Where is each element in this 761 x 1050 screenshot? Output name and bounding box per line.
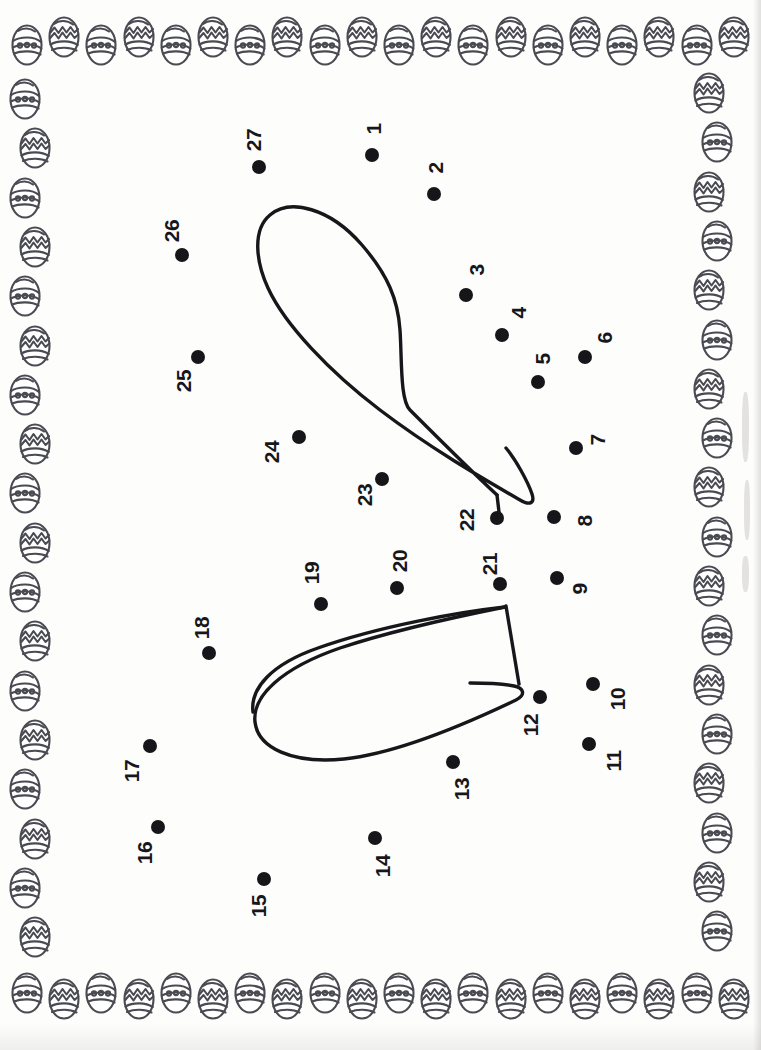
puzzle-dot-27[interactable] xyxy=(252,160,266,174)
border-egg-right-7 xyxy=(692,364,726,410)
puzzle-dot-24[interactable] xyxy=(292,430,306,444)
ear-base-tick xyxy=(497,495,499,512)
border-egg-bottom-16 xyxy=(568,974,602,1020)
scan-artifact xyxy=(742,556,749,592)
puzzle-dot-18[interactable] xyxy=(202,646,216,660)
dot-label-18: 18 xyxy=(190,614,214,642)
puzzle-dot-22[interactable] xyxy=(490,511,504,525)
puzzle-dot-8[interactable] xyxy=(547,510,561,524)
border-egg-left-8 xyxy=(18,419,52,465)
border-egg-left-11 xyxy=(8,567,42,613)
puzzle-dot-16[interactable] xyxy=(151,820,165,834)
dot-label-24: 24 xyxy=(260,438,284,466)
border-egg-left-17 xyxy=(8,863,42,909)
scan-artifact xyxy=(742,392,749,462)
border-egg-top-1 xyxy=(10,20,44,66)
puzzle-dot-13[interactable] xyxy=(446,755,460,769)
lower-ear-cap xyxy=(506,606,519,684)
border-egg-bottom-13 xyxy=(456,968,490,1014)
border-egg-bottom-15 xyxy=(531,968,565,1014)
puzzle-dot-21[interactable] xyxy=(493,577,507,591)
dot-label-19: 19 xyxy=(300,559,324,587)
border-egg-right-15 xyxy=(692,758,726,804)
dot-label-6: 6 xyxy=(593,324,617,352)
puzzle-dot-20[interactable] xyxy=(390,581,404,595)
border-egg-bottom-18 xyxy=(642,974,676,1020)
dot-label-26: 26 xyxy=(160,217,184,245)
border-egg-bottom-14 xyxy=(494,974,528,1020)
lower-ear-top-edge xyxy=(253,607,505,712)
dot-label-16: 16 xyxy=(133,839,157,867)
puzzle-dot-4[interactable] xyxy=(495,328,509,342)
border-egg-top-14 xyxy=(494,12,528,58)
dot-label-22: 22 xyxy=(455,506,479,534)
border-egg-top-10 xyxy=(345,12,379,58)
border-egg-bottom-8 xyxy=(270,974,304,1020)
puzzle-dot-23[interactable] xyxy=(375,472,389,486)
border-egg-bottom-3 xyxy=(84,968,118,1014)
border-egg-right-16 xyxy=(700,808,734,854)
border-egg-bottom-17 xyxy=(605,968,639,1014)
puzzle-dot-14[interactable] xyxy=(368,831,382,845)
border-egg-left-3 xyxy=(8,173,42,219)
border-egg-left-15 xyxy=(8,764,42,810)
dot-label-12: 12 xyxy=(519,711,543,739)
border-egg-top-3 xyxy=(84,20,118,66)
dot-label-4: 4 xyxy=(507,299,531,327)
puzzle-dot-15[interactable] xyxy=(257,872,271,886)
dot-label-15: 15 xyxy=(247,892,271,920)
puzzle-dot-17[interactable] xyxy=(143,739,157,753)
border-egg-left-7 xyxy=(8,370,42,416)
puzzle-dot-11[interactable] xyxy=(582,737,596,751)
border-egg-top-6 xyxy=(196,12,230,58)
puzzle-dot-3[interactable] xyxy=(459,288,473,302)
border-egg-top-16 xyxy=(568,12,602,58)
border-egg-top-11 xyxy=(382,20,416,66)
border-egg-right-12 xyxy=(700,610,734,656)
border-egg-top-18 xyxy=(642,12,676,58)
puzzle-dot-9[interactable] xyxy=(550,571,564,585)
dot-label-1: 1 xyxy=(362,115,386,143)
border-egg-right-17 xyxy=(692,857,726,903)
worksheet-page: 1234567891011121314151617181920212223242… xyxy=(0,0,761,1050)
puzzle-dot-5[interactable] xyxy=(531,375,545,389)
border-egg-top-2 xyxy=(47,12,81,58)
puzzle-dot-25[interactable] xyxy=(191,350,205,364)
border-egg-right-1 xyxy=(692,68,726,114)
border-egg-top-19 xyxy=(680,20,714,66)
border-egg-left-5 xyxy=(8,271,42,317)
puzzle-dot-19[interactable] xyxy=(314,597,328,611)
puzzle-dot-7[interactable] xyxy=(569,441,583,455)
border-egg-bottom-2 xyxy=(47,974,81,1020)
puzzle-dot-6[interactable] xyxy=(578,350,592,364)
border-egg-left-18 xyxy=(18,912,52,958)
dot-label-14: 14 xyxy=(371,852,395,880)
border-egg-bottom-1 xyxy=(10,968,44,1014)
dot-label-23: 23 xyxy=(353,481,377,509)
dot-label-8: 8 xyxy=(573,507,597,535)
puzzle-dot-26[interactable] xyxy=(175,248,189,262)
puzzle-dot-2[interactable] xyxy=(427,187,441,201)
puzzle-dot-10[interactable] xyxy=(586,677,600,691)
border-egg-right-2 xyxy=(700,117,734,163)
dot-label-27: 27 xyxy=(242,126,266,154)
border-egg-right-14 xyxy=(700,709,734,755)
border-egg-left-10 xyxy=(18,518,52,564)
dot-label-5: 5 xyxy=(531,345,555,373)
puzzle-artwork xyxy=(0,0,761,1050)
border-egg-left-1 xyxy=(8,74,42,120)
border-egg-top-5 xyxy=(159,20,193,66)
dot-label-3: 3 xyxy=(465,256,489,284)
border-egg-top-4 xyxy=(122,12,156,58)
border-egg-left-4 xyxy=(18,222,52,268)
border-egg-left-13 xyxy=(8,666,42,712)
puzzle-dot-1[interactable] xyxy=(365,148,379,162)
border-egg-left-9 xyxy=(8,468,42,514)
border-egg-bottom-19 xyxy=(680,968,714,1014)
scan-edge-shadow xyxy=(753,0,761,1050)
border-egg-bottom-11 xyxy=(382,968,416,1014)
puzzle-dot-12[interactable] xyxy=(533,690,547,704)
border-egg-top-12 xyxy=(419,12,453,58)
border-egg-right-18 xyxy=(700,906,734,952)
border-egg-bottom-5 xyxy=(159,968,193,1014)
